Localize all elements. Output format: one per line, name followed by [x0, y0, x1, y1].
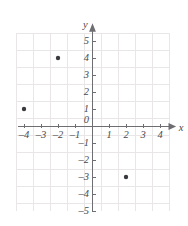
- y-axis-tick-label: 3: [83, 69, 89, 80]
- x-axis-arrowhead-icon: [169, 123, 177, 130]
- origin-zero-label: 0: [84, 114, 90, 125]
- axis-name-labels: xy: [82, 19, 184, 133]
- x-axis-tick-label: 1: [106, 129, 111, 140]
- coordinate-plane-chart: –4–3–2–11234 54321–1–2–3–4–5 0 xy (–4, 1…: [0, 0, 188, 226]
- y-axis-tick-label: 5: [84, 35, 89, 46]
- x-axis-tick-label: 2: [123, 129, 129, 140]
- y-axis-tick-label: –3: [78, 171, 90, 182]
- y-axis-tick-label: –4: [78, 188, 90, 199]
- y-axis-arrowhead-icon: [89, 23, 96, 32]
- y-axis-tick-label: –1: [78, 137, 90, 148]
- y-axis-tick-label: 4: [84, 52, 90, 63]
- y-axis-tick-label: –2: [78, 154, 90, 165]
- x-axis-tick-labels: –4–3–2–11234: [18, 129, 164, 140]
- x-axis-tick-label: –3: [35, 129, 47, 140]
- x-axis-tick-label: 3: [139, 129, 145, 140]
- x-axis-tick-label: –2: [52, 129, 64, 140]
- data-points: (–4, 1)(–2, 4)(2, –3): [22, 56, 128, 179]
- y-axis-tick-label: –5: [78, 205, 90, 216]
- data-point: (–4, 1): [22, 107, 26, 111]
- y-axis-tick-label: 1: [84, 103, 89, 114]
- y-axis-tick-label: 2: [84, 86, 90, 97]
- y-axis-name-label: y: [82, 19, 88, 30]
- x-axis-tick-label: 4: [157, 129, 163, 140]
- y-axis-tick-labels: 54321–1–2–3–4–5: [78, 35, 90, 216]
- x-axis-tick-label: –4: [18, 129, 30, 140]
- data-point: (2, –3): [124, 175, 128, 179]
- data-point: (–2, 4): [56, 56, 60, 60]
- origin-label: 0: [84, 114, 90, 125]
- x-axis-name-label: x: [178, 122, 184, 133]
- coordinate-plane-figure: –4–3–2–11234 54321–1–2–3–4–5 0 xy (–4, 1…: [0, 0, 188, 226]
